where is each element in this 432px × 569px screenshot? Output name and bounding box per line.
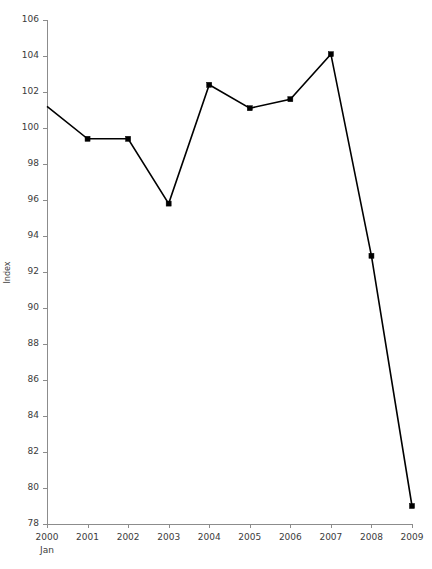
y-axis-tick-label: 106 xyxy=(3,14,39,24)
y-axis-tick-label: 88 xyxy=(3,338,39,348)
data-point-marker xyxy=(85,136,90,141)
y-axis-tick-label: 94 xyxy=(3,230,39,240)
data-point-marker xyxy=(410,504,415,509)
data-point-marker xyxy=(126,136,131,141)
y-axis-tick-label: 82 xyxy=(3,446,39,456)
data-point-marker xyxy=(166,201,171,206)
data-point-marker xyxy=(207,82,212,87)
y-axis-tick-label: 98 xyxy=(3,158,39,168)
x-axis-tick-label: 2001 xyxy=(67,532,109,542)
x-axis-tick-label: 2003 xyxy=(148,532,190,542)
y-axis-tick-label: 90 xyxy=(3,302,39,312)
y-axis-tick-label: 104 xyxy=(3,50,39,60)
y-axis-tick-label: 80 xyxy=(3,482,39,492)
data-series-line xyxy=(47,54,412,506)
x-axis-tick-label: 2007 xyxy=(310,532,352,542)
data-point-marker xyxy=(247,106,252,111)
y-axis-tick-label: 86 xyxy=(3,374,39,384)
data-point-marker xyxy=(369,253,374,258)
x-axis-tick-label: 2006 xyxy=(269,532,311,542)
data-point-marker xyxy=(328,52,333,57)
x-axis-tick-label: 2000 xyxy=(26,532,68,542)
y-axis-tick-label: 84 xyxy=(3,410,39,420)
data-point-marker xyxy=(288,97,293,102)
line-chart: Index 1061041021009896949290888684828078… xyxy=(0,0,432,569)
y-axis-tick-label: 102 xyxy=(3,86,39,96)
y-axis-tick-label: 78 xyxy=(3,518,39,528)
x-axis-tick-label: 2009 xyxy=(391,532,432,542)
x-axis-tick-label: 2004 xyxy=(188,532,230,542)
chart-canvas xyxy=(0,0,432,569)
x-axis-tick-label: 2005 xyxy=(229,532,271,542)
x-axis-tick-label: 2002 xyxy=(107,532,149,542)
x-axis-sub-label: Jan xyxy=(26,545,68,555)
y-axis-tick-label: 100 xyxy=(3,122,39,132)
x-axis-tick-label: 2008 xyxy=(350,532,392,542)
y-axis-tick-label: 92 xyxy=(3,266,39,276)
y-axis-tick-label: 96 xyxy=(3,194,39,204)
